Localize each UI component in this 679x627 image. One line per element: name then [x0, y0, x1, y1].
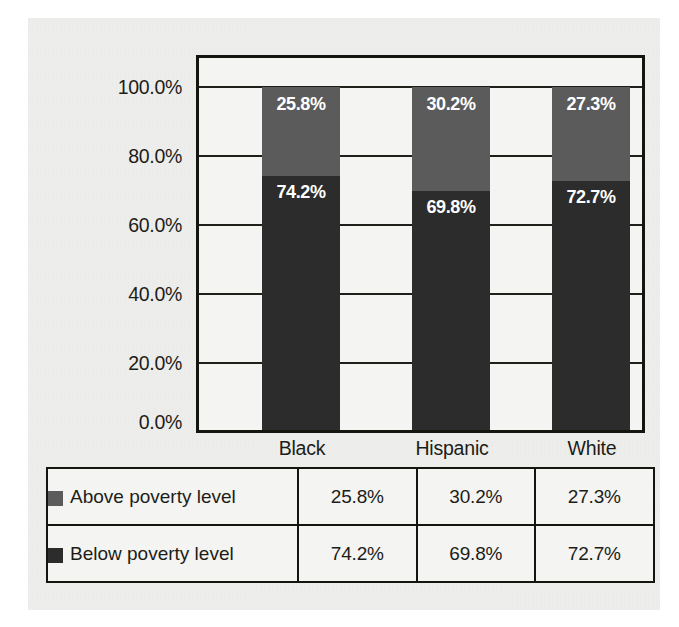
bar-segment-above-poverty-black[interactable]: 25.8% [262, 87, 340, 176]
bar-segment-below-poverty-black[interactable]: 74.2% [262, 176, 340, 430]
plot-area: 25.8% 74.2% 30.2% 69.8% 27.3% 72.7% [196, 55, 645, 433]
table-row[interactable]: Below poverty level 74.2% 69.8% 72.7% [47, 525, 654, 582]
legend-name-cell-above-poverty[interactable]: Above poverty level [47, 468, 298, 525]
y-tick-label-100: 100.0% [56, 76, 182, 99]
stacked-bar-chart-figure: 100.0% 80.0% 60.0% 40.0% 20.0% 0.0% 25.8… [0, 0, 679, 627]
bar-label-below-poverty-white: 72.7% [552, 187, 630, 208]
bar-label-above-poverty-black: 25.8% [262, 94, 340, 115]
legend-label-above-poverty: Above poverty level [70, 487, 236, 507]
bar-label-below-poverty-black: 74.2% [262, 182, 340, 203]
legend-label-below-poverty: Below poverty level [70, 544, 234, 564]
bar-label-above-poverty-white: 27.3% [552, 94, 630, 115]
legend-data-table: Above poverty level 25.8% 30.2% 27.3% Be… [46, 467, 655, 583]
legend-value-above-poverty-hispanic: 30.2% [417, 468, 536, 525]
bar-segment-below-poverty-white[interactable]: 72.7% [552, 181, 630, 430]
bar-segment-above-poverty-white[interactable]: 27.3% [552, 87, 630, 181]
legend-name-cell-below-poverty[interactable]: Below poverty level [47, 525, 298, 582]
legend-swatch-icon-below-poverty [48, 548, 63, 563]
bar-label-below-poverty-hispanic: 69.8% [412, 197, 490, 218]
legend-value-below-poverty-black: 74.2% [298, 525, 417, 582]
y-tick-label-20: 20.0% [56, 352, 182, 375]
x-tick-label-white: White [510, 437, 674, 460]
bar-segment-below-poverty-hispanic[interactable]: 69.8% [412, 191, 490, 430]
legend-value-below-poverty-white: 72.7% [535, 525, 654, 582]
legend-swatch-icon-above-poverty [48, 491, 63, 506]
y-tick-label-60: 60.0% [56, 214, 182, 237]
bar-segment-above-poverty-hispanic[interactable]: 30.2% [412, 87, 490, 191]
legend-value-below-poverty-hispanic: 69.8% [417, 525, 536, 582]
table-row[interactable]: Above poverty level 25.8% 30.2% 27.3% [47, 468, 654, 525]
y-tick-label-0: 0.0% [56, 411, 182, 434]
bar-label-above-poverty-hispanic: 30.2% [412, 94, 490, 115]
legend-value-above-poverty-white: 27.3% [535, 468, 654, 525]
x-tick-label-black: Black [220, 437, 384, 460]
y-tick-label-40: 40.0% [56, 283, 182, 306]
legend-value-above-poverty-black: 25.8% [298, 468, 417, 525]
y-tick-label-80: 80.0% [56, 145, 182, 168]
